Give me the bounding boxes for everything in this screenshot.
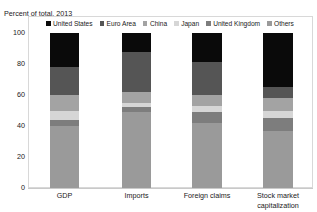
bar-segment-euro-area[interactable] <box>122 52 151 92</box>
bar-segment-china[interactable] <box>50 95 79 111</box>
y-axis-tick-20: 20 <box>17 153 25 161</box>
bar-segment-united-states[interactable] <box>263 33 293 87</box>
bar-segment-united-states[interactable] <box>50 33 79 67</box>
bar-segment-china[interactable] <box>263 98 293 110</box>
bar-segment-japan[interactable] <box>263 111 293 119</box>
bar-segment-china[interactable] <box>122 92 151 103</box>
bar-segment-japan[interactable] <box>122 103 151 108</box>
bar-segment-others[interactable] <box>192 123 222 188</box>
bar-group-gdp[interactable] <box>50 33 79 188</box>
bar-segment-united-kingdom[interactable] <box>192 112 222 123</box>
y-axis-tick-0: 0 <box>21 184 25 192</box>
bar-segment-others[interactable] <box>263 131 293 188</box>
x-axis-label-imports: Imports <box>102 191 172 201</box>
y-axis-tick-60: 60 <box>17 91 25 99</box>
x-axis-label-stock-market-capitalization: Stock market capitalization <box>246 191 310 210</box>
bar-stack <box>263 33 293 188</box>
bar-segment-united-states[interactable] <box>122 33 151 52</box>
bar-stack <box>192 33 222 188</box>
x-axis-labels: GDPImportsForeign claimsStock market cap… <box>28 191 313 212</box>
y-axis: 020406080100 <box>0 16 28 188</box>
y-axis-tick-40: 40 <box>17 122 25 130</box>
y-axis-tick-100: 100 <box>13 29 25 37</box>
stacked-bar-chart: Percent of total, 2013 United StatesEuro… <box>0 0 317 212</box>
bar-segment-united-kingdom[interactable] <box>263 118 293 130</box>
x-axis-baseline <box>28 188 313 189</box>
bar-segment-united-kingdom[interactable] <box>122 107 151 112</box>
bar-group-stock-market-capitalization[interactable] <box>263 33 293 188</box>
bar-segment-japan[interactable] <box>192 106 222 112</box>
bar-stack <box>122 33 151 188</box>
bar-segment-euro-area[interactable] <box>192 62 222 95</box>
bar-segment-united-kingdom[interactable] <box>50 120 79 126</box>
bar-segment-united-states[interactable] <box>192 33 222 62</box>
bar-group-foreign-claims[interactable] <box>192 33 222 188</box>
bar-segment-euro-area[interactable] <box>50 67 79 95</box>
bar-segment-euro-area[interactable] <box>263 87 293 98</box>
bar-segment-others[interactable] <box>50 126 79 188</box>
x-axis-label-gdp: GDP <box>30 191 100 201</box>
bar-stack <box>50 33 79 188</box>
y-axis-tick-80: 80 <box>17 60 25 68</box>
bars-area <box>28 33 313 188</box>
bar-segment-china[interactable] <box>192 95 222 106</box>
bar-segment-japan[interactable] <box>50 111 79 120</box>
bar-segment-others[interactable] <box>122 112 151 188</box>
x-axis-label-foreign-claims: Foreign claims <box>167 191 247 201</box>
bar-group-imports[interactable] <box>122 33 151 188</box>
